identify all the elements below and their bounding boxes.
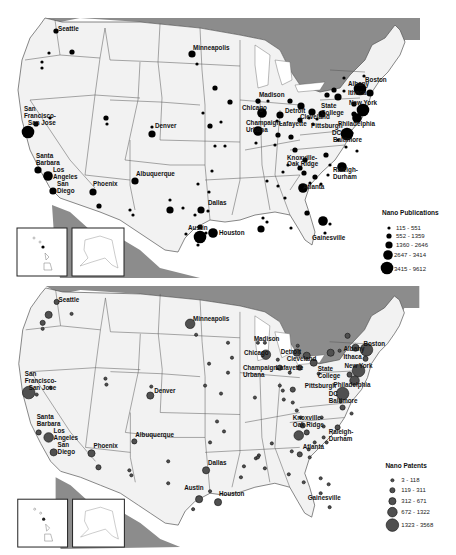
svg-text:Houston: Houston	[219, 229, 245, 236]
svg-text:Knoxville-: Knoxville-	[293, 414, 323, 421]
svg-text:Austin: Austin	[188, 224, 208, 231]
svg-text:Diego: Diego	[58, 448, 76, 456]
svg-text:Phoenix: Phoenix	[93, 180, 118, 187]
publications-map: Seattle San Francisco- San Jose Santa Ba…	[0, 0, 456, 278]
svg-text:Dallas: Dallas	[208, 199, 227, 206]
svg-text:Madison: Madison	[259, 91, 285, 98]
svg-text:State: State	[321, 102, 337, 109]
svg-text:College: College	[321, 109, 344, 117]
alaska-inset	[73, 499, 125, 547]
svg-text:Lafayette: Lafayette	[279, 120, 307, 128]
svg-text:Los: Los	[53, 166, 65, 173]
svg-text:Boston: Boston	[364, 340, 386, 347]
svg-text:Oak Ridge: Oak Ridge	[293, 421, 325, 429]
svg-text:New York: New York	[349, 99, 378, 106]
publications-legend: Nano Publications 115 - 551 552 - 1359 1…	[381, 209, 439, 274]
svg-text:Phoenix: Phoenix	[93, 442, 118, 449]
svg-text:Baltimore: Baltimore	[333, 136, 363, 143]
alaska-inset	[72, 228, 124, 276]
svg-text:San Jose: San Jose	[29, 384, 57, 391]
svg-text:San: San	[24, 105, 36, 112]
svg-text:Barbara: Barbara	[37, 420, 61, 427]
svg-text:Lafayette: Lafayette	[276, 364, 304, 372]
svg-text:1323 - 3568: 1323 - 3568	[401, 522, 434, 528]
svg-text:Philadelphia: Philadelphia	[338, 120, 376, 128]
svg-text:Dallas: Dallas	[208, 459, 227, 466]
hawaii-inset	[18, 499, 68, 547]
svg-text:Austin: Austin	[184, 484, 204, 491]
svg-text:Philadelphia: Philadelphia	[334, 381, 371, 389]
svg-text:Seattle: Seattle	[58, 25, 79, 32]
svg-text:672 - 1322: 672 - 1322	[401, 509, 430, 515]
svg-text:Madison: Madison	[254, 335, 280, 342]
svg-text:Atlanta: Atlanta	[303, 183, 325, 190]
svg-text:Barbara: Barbara	[36, 159, 60, 166]
svg-text:3415 - 9612: 3415 - 9612	[394, 266, 427, 272]
svg-text:2647 - 3414: 2647 - 3414	[394, 252, 427, 258]
svg-text:San: San	[25, 370, 37, 377]
svg-text:Chicago: Chicago	[242, 104, 267, 112]
publications-map-panel: Seattle San Francisco- San Jose Santa Ba…	[0, 0, 456, 278]
svg-text:Los: Los	[54, 427, 66, 434]
svg-text:Francisco-: Francisco-	[25, 377, 57, 384]
patents-map: Seattle San Francisco- San Jose Santa Ba…	[0, 278, 456, 555]
svg-text:Minneapolis: Minneapolis	[193, 315, 230, 323]
svg-text:Denver: Denver	[154, 387, 176, 394]
svg-text:Gainesville: Gainesville	[312, 234, 346, 241]
svg-text:Cleveland: Cleveland	[287, 355, 317, 362]
svg-text:Denver: Denver	[155, 122, 177, 129]
svg-text:Pittsburgh: Pittsburgh	[305, 382, 336, 390]
svg-text:115 - 551: 115 - 551	[396, 225, 422, 231]
hawaii-symbol	[42, 518, 45, 521]
svg-text:Nano Publications: Nano Publications	[382, 209, 439, 216]
svg-text:Santa: Santa	[36, 152, 54, 159]
svg-text:DC: DC	[329, 390, 339, 397]
svg-text:San Jose: San Jose	[28, 119, 56, 126]
svg-text:College: College	[318, 372, 341, 380]
svg-text:Boston: Boston	[365, 76, 387, 83]
svg-text:San: San	[58, 441, 70, 448]
svg-text:Oak Ridge: Oak Ridge	[287, 160, 319, 168]
svg-text:552 - 1359: 552 - 1359	[396, 233, 425, 239]
svg-text:119 - 311: 119 - 311	[401, 487, 426, 493]
svg-text:Detroit: Detroit	[281, 348, 302, 355]
svg-text:Baltimore: Baltimore	[329, 397, 358, 404]
svg-text:Albuquerque: Albuquerque	[136, 170, 175, 178]
patents-map-panel: Seattle San Francisco- San Jose Santa Ba…	[0, 278, 456, 555]
svg-text:Nano Patents: Nano Patents	[385, 462, 427, 469]
patents-legend: Nano Patents 3 - 118 119 - 311 312 - 671…	[385, 462, 433, 531]
svg-text:San: San	[57, 180, 69, 187]
svg-text:Diego: Diego	[57, 187, 75, 195]
svg-text:New York: New York	[345, 362, 373, 369]
svg-text:Minneapolis: Minneapolis	[193, 44, 230, 52]
svg-text:Francisco-: Francisco-	[24, 112, 56, 119]
svg-text:Albany: Albany	[344, 345, 365, 353]
svg-text:Chicago: Chicago	[244, 349, 269, 357]
svg-text:312 - 671: 312 - 671	[401, 498, 427, 504]
svg-text:Durham: Durham	[329, 435, 353, 442]
svg-text:1360 - 2646: 1360 - 2646	[396, 242, 429, 248]
svg-text:Urbana: Urbana	[243, 371, 265, 378]
svg-text:Houston: Houston	[219, 490, 245, 497]
svg-text:Durham: Durham	[333, 173, 357, 180]
svg-text:Ithaca: Ithaca	[348, 89, 367, 96]
svg-text:Albuquerque: Albuquerque	[135, 431, 174, 439]
hawaii-symbol	[41, 245, 44, 248]
svg-text:Santa: Santa	[37, 413, 55, 420]
hawaii-inset	[17, 228, 67, 276]
svg-text:Gainesville: Gainesville	[308, 494, 342, 501]
svg-text:Ithaca: Ithaca	[344, 353, 363, 360]
svg-text:DC: DC	[332, 129, 342, 136]
svg-text:Atlanta: Atlanta	[303, 443, 325, 450]
svg-text:Seattle: Seattle	[59, 296, 80, 303]
svg-text:3 - 118: 3 - 118	[401, 477, 420, 483]
svg-text:Urbana: Urbana	[246, 126, 268, 133]
svg-text:State: State	[318, 365, 334, 372]
